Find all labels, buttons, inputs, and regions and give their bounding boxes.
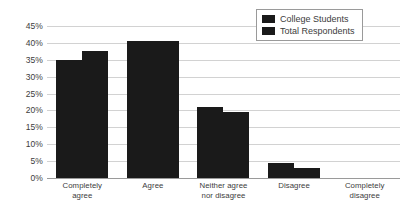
legend-item-total-respondents: Total Respondents (262, 25, 355, 37)
bar (153, 41, 179, 178)
chart-legend: College Students Total Respondents (256, 9, 363, 41)
bar-group (329, 26, 400, 178)
y-axis-tick-label: 45% (3, 22, 43, 31)
x-axis-labels: CompletelyagreeAgreeNeither agreenor dis… (47, 181, 400, 201)
x-axis-tick-label-line: Disagree (259, 181, 330, 191)
bar (268, 163, 294, 178)
y-axis-labels: 45%40%35%30%25%20%15%10%5%0% (0, 26, 43, 178)
bar (223, 112, 249, 178)
x-axis-tick-label: Neither agreenor disagree (188, 181, 259, 201)
x-axis-tick-label: Completelyagree (47, 181, 118, 201)
x-axis-tick-label-line: nor disagree (188, 191, 259, 201)
y-axis-tick-label: 15% (3, 123, 43, 132)
y-axis-tick-label: 20% (3, 106, 43, 115)
bar-chart: 45%40%35%30%25%20%15%10%5%0% Completelya… (0, 0, 415, 215)
x-axis-tick-label: Agree (118, 181, 189, 201)
x-axis-line (47, 178, 400, 179)
bar-group (259, 26, 330, 178)
y-axis-tick-label: 35% (3, 56, 43, 65)
y-axis-tick-label: 40% (3, 39, 43, 48)
y-axis-tick-label: 10% (3, 140, 43, 149)
legend-label-college-students: College Students (280, 15, 349, 24)
bar (82, 51, 108, 178)
x-axis-tick-label-line: Agree (118, 181, 189, 191)
bar (294, 168, 320, 178)
y-axis-tick-label: 5% (3, 157, 43, 166)
bar-groups (47, 26, 400, 178)
x-axis-tick-label: Disagree (259, 181, 330, 201)
bar-group (188, 26, 259, 178)
y-axis-tick-label: 0% (3, 174, 43, 183)
y-axis-tick-label: 25% (3, 89, 43, 98)
bar (197, 107, 223, 178)
x-axis-tick-label-line: Completely (47, 181, 118, 191)
bar-group (118, 26, 189, 178)
x-axis-tick-label-line: Neither agree (188, 181, 259, 191)
legend-swatch-college-students (262, 15, 275, 23)
y-axis-tick-label: 30% (3, 72, 43, 81)
x-axis-tick-label-line: disagree (329, 191, 400, 201)
legend-item-college-students: College Students (262, 13, 355, 25)
x-axis-tick-label-line: Completely (329, 181, 400, 191)
legend-swatch-total-respondents (262, 27, 275, 35)
bar-group (47, 26, 118, 178)
x-axis-tick-label: Completelydisagree (329, 181, 400, 201)
bar (127, 41, 153, 178)
x-axis-tick-label-line: agree (47, 191, 118, 201)
legend-label-total-respondents: Total Respondents (280, 27, 355, 36)
bar (56, 60, 82, 178)
